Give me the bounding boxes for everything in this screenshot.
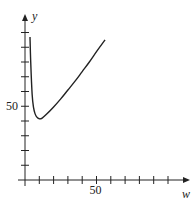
chart: y w 5050 <box>0 0 196 205</box>
x-axis-label: w <box>182 187 190 201</box>
y-axis <box>21 14 29 186</box>
y-axis-arrow-icon <box>22 14 28 21</box>
data-curve <box>30 37 105 119</box>
y-tick-label: 50 <box>6 99 18 113</box>
y-axis-label: y <box>31 9 38 23</box>
x-tick-label: 50 <box>90 183 102 197</box>
x-axis <box>18 176 190 184</box>
x-axis-arrow-icon <box>183 177 190 183</box>
